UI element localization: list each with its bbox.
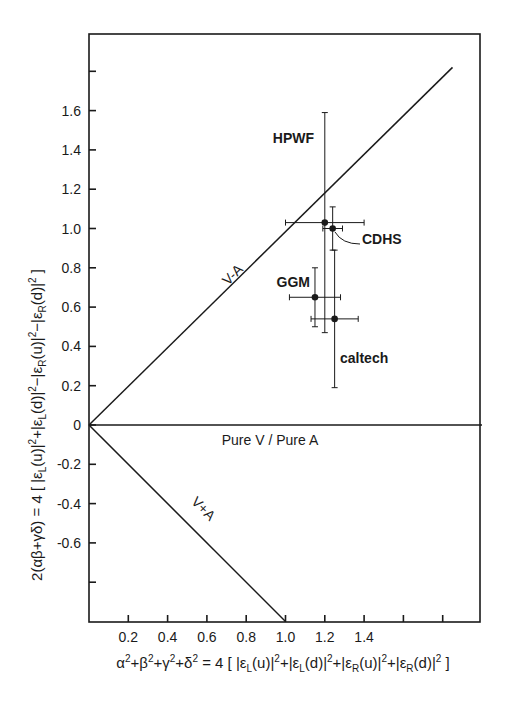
data-point-caltech (311, 250, 358, 388)
y-tick-label: 0 (73, 417, 81, 433)
line-label-pure-v-pure-a: Pure V / Pure A (222, 432, 319, 448)
cdhs-leader-line (335, 232, 360, 244)
x-tick-label: 0.4 (158, 629, 178, 645)
y-tick-label: 1.4 (62, 142, 82, 158)
y-tick-label: 0.2 (62, 378, 82, 394)
line-label-v-a: V+A (188, 493, 219, 524)
data-marker (329, 225, 336, 232)
y-tick-label: 1.2 (62, 181, 82, 197)
point-label-cdhs: CDHS (362, 231, 402, 247)
reference-lines (89, 67, 482, 621)
data-marker (312, 294, 319, 301)
x-tick-label: 1.0 (276, 629, 296, 645)
annotation-labels: V-APure V / Pure AV+AHPWFCDHSGGMcaltech (188, 130, 401, 524)
reference-line-v-a (89, 425, 286, 622)
data-marker (331, 316, 338, 323)
data-points (286, 113, 365, 388)
y-tick-label: 1.6 (62, 103, 82, 119)
point-label-caltech: caltech (340, 350, 388, 366)
chart-figure: 0.20.40.60.81.01.21.4 1.61.41.21.00.80.6… (0, 0, 519, 707)
y-tick-label: 0.8 (62, 260, 82, 276)
point-label-hpwf: HPWF (273, 130, 315, 146)
y-tick-label: -0.2 (57, 456, 81, 472)
y-tick-label: 0.4 (62, 338, 82, 354)
x-tick-label: 1.2 (315, 629, 335, 645)
x-axis-title: α2+β2+γ2+δ2 = 4 [ |εL(u)|2+|εL(d)|2+|εR(… (116, 653, 449, 674)
x-tick-label: 0.8 (236, 629, 256, 645)
line-label-v-a: V-A (219, 260, 247, 288)
y-tick-label: 0.6 (62, 299, 82, 315)
x-tick-label: 1.4 (354, 629, 374, 645)
plot-border (89, 34, 480, 622)
x-axis-ticks: 0.20.40.60.81.01.21.4 (119, 615, 443, 645)
y-tick-label: -0.6 (57, 535, 81, 551)
y-tick-label: 1.0 (62, 221, 82, 237)
y-tick-label: -0.4 (57, 496, 81, 512)
data-marker (322, 219, 329, 226)
point-label-ggm: GGM (277, 274, 310, 290)
data-point-cdhs (323, 207, 343, 250)
x-tick-label: 0.2 (119, 629, 139, 645)
plot-frame (89, 34, 480, 622)
y-axis-ticks: 1.61.41.21.00.80.60.40.20-0.2-0.4-0.6 (57, 71, 96, 582)
y-axis-title: 2(αβ+γδ) = 4 [ |εL(u)|2+|εL(d)|2−|εR(u)|… (27, 269, 48, 581)
x-tick-label: 0.6 (197, 629, 217, 645)
